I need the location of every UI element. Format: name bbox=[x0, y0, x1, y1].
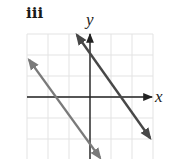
coordinate-plane bbox=[0, 0, 177, 159]
right-line bbox=[77, 35, 150, 138]
graph-panel: iii y x bbox=[0, 0, 177, 159]
